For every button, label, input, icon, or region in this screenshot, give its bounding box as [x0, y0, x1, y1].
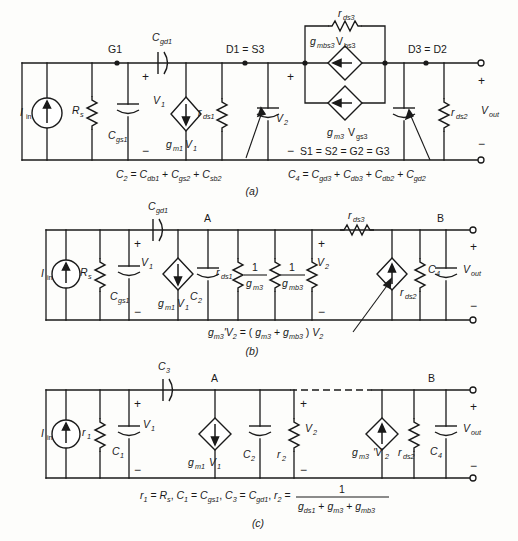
rds1-resistor-a: r ds1 — [198, 63, 227, 160]
source-resistance-b: R s — [80, 230, 105, 320]
v2-label-a: V — [276, 112, 284, 124]
input-source-sublabel-c: in — [47, 433, 53, 442]
rs-sublabel: s — [80, 110, 84, 119]
v2-plus-b: + — [318, 237, 325, 251]
gmb3-fraction-numerator-b: 1 — [289, 261, 295, 273]
c3-capacitor-c: C 3 — [158, 360, 173, 401]
gmbs3-v-label-a: V — [336, 35, 343, 47]
vout-minus-c: − — [470, 459, 477, 473]
c4-capacitor-a — [393, 63, 430, 160]
c2-capacitor-a: V 2 — [246, 63, 288, 160]
rds1-label-a: r — [198, 106, 202, 118]
v1-sublabel-b: 1 — [149, 262, 153, 271]
node-g1-label: G1 — [108, 43, 122, 55]
gm1-v1-sublabel-a: 1 — [193, 144, 197, 153]
circuit-b: I in R s C gs1 + − V 1 C gd1 — [41, 200, 482, 357]
r2-sublabel-c: 2 — [281, 454, 286, 463]
element-definitions-c: r1 = Rs, C1 = Cgs1, C3 = Cgd1, r2 = — [140, 489, 291, 504]
gm1-label-b: g — [158, 297, 164, 309]
vout-plus-a: + — [478, 74, 485, 88]
node-d3d2-dot — [423, 60, 428, 65]
output-terminal-neg-c — [470, 475, 476, 481]
rds3-sublabel-a: ds3 — [343, 13, 355, 22]
cgs1-sublabel: gs1 — [116, 135, 128, 144]
input-current-source-b: I in — [41, 230, 80, 320]
rds1-sublabel-b: ds1 — [221, 272, 233, 281]
r1-label-c: r — [82, 426, 86, 438]
c2-label-b: C — [190, 290, 198, 302]
v1-label-a: V — [153, 94, 161, 106]
gm3-fraction-numerator-b: 1 — [252, 261, 258, 273]
c4-capacitor-c: C 4 — [430, 390, 457, 478]
node-d1s3-label: D1 = S3 — [226, 43, 264, 55]
c4-label-c: C — [430, 445, 438, 457]
rds2-sublabel-a: ds2 — [456, 112, 468, 121]
gmbs3-source-a: g mbs3 V bs3 — [310, 35, 362, 80]
c2-label-c: C — [243, 448, 251, 460]
c2-definition-a: C2 = Cdb1 + Cgs2 + Csb2 — [116, 168, 221, 183]
gm3prime-v2-sublabel-c: 2 — [384, 452, 389, 461]
svg-text:gm3'V2 = ( gm3 + gmb3 ) V2: gm3'V2 = ( gm3 + gmb3 ) V2 — [208, 326, 323, 341]
rds3-sublabel-b: ds3 — [353, 215, 365, 224]
rds2-label-a: r — [451, 106, 455, 118]
input-source-sublabel: in — [26, 112, 32, 121]
v1-minus-a: − — [142, 144, 149, 158]
gmbs3-v-sublabel-a: bs3 — [344, 41, 356, 50]
rds2-resistor-a: r ds2 — [439, 63, 468, 160]
gm3-sublabel-a: m3 — [334, 132, 344, 141]
r1-resistor-c: r 1 — [82, 390, 105, 478]
vout-sublabel-c: out — [471, 428, 482, 437]
c1-label-c: C — [112, 445, 120, 457]
rds2-sublabel-c: ds2 — [403, 452, 415, 461]
cgd1-label: C — [152, 31, 160, 43]
gm3prime-v2-label-c: 'V — [373, 446, 383, 458]
node-a-label-b: A — [204, 212, 211, 224]
node-d1s3-dot — [242, 60, 247, 65]
v1-sublabel-c: 1 — [151, 424, 155, 433]
gmbs3-label-a: g — [310, 35, 316, 47]
caption-b: (b) — [246, 345, 259, 357]
gm3prime-source-c: g m3 'V 2 — [352, 390, 398, 478]
v1-minus-c: − — [134, 463, 141, 477]
gm1-sublabel-a: m1 — [173, 144, 183, 153]
gmb3-fraction-den-sub-b: mb3 — [289, 283, 303, 292]
node-g1-dot — [114, 60, 119, 65]
c2-sublabel-c: 2 — [250, 454, 255, 463]
one-over-gm3-resistor-b: 1 g m3 — [244, 230, 280, 320]
r2-fraction-numerator-c: 1 — [339, 483, 345, 495]
c3-sublabel-c: 3 — [166, 366, 170, 375]
r2-resistor-c: r 2 — [277, 390, 299, 478]
input-source-label-c: I — [41, 427, 44, 439]
c4-definition-a: C4 = Cgd3 + Cdb3 + Cdb2 + Cgd2 — [288, 168, 426, 183]
output-terminal-pos-c — [470, 387, 476, 393]
gm1-v1-sublabel-b: 1 — [185, 303, 189, 312]
vout-plus-c: + — [470, 400, 477, 414]
gm3-v-sublabel-a: gs3 — [356, 132, 368, 141]
svg-text:C4 = Cgd3 + Cdb3 + Cdb2 + Cgd2: C4 = Cgd3 + Cdb3 + Cdb2 + Cgd2 — [288, 168, 426, 183]
c1-sublabel-c: 1 — [120, 451, 124, 460]
gm1v1-source-c: g m1 V 1 — [188, 390, 231, 478]
v2-sublabel-c: 2 — [312, 428, 317, 437]
gm3-v-label-a: V — [348, 126, 355, 138]
r2-fraction-c: 1 gds1 + gm3 + gmb3 — [296, 483, 389, 515]
figure-canvas: I in R s G1 C gs1 + − V 1 C — [0, 0, 518, 541]
gm3-label-a: g — [327, 126, 333, 138]
rs-label-b: R — [80, 266, 88, 278]
v2-plus-a: + — [287, 70, 294, 84]
caption-a: (a) — [246, 185, 259, 197]
c2-capacitor-c: C 2 — [243, 390, 271, 478]
r2-label-c: r — [277, 448, 281, 460]
source-resistance-a: R s — [72, 63, 97, 160]
v1-minus-b: − — [134, 305, 141, 319]
rds1-sublabel-a: ds1 — [203, 112, 215, 121]
gmb3-fraction-den-b: g — [282, 277, 288, 289]
vout-label-a: V — [481, 104, 489, 116]
circuit-a: I in R s G1 C gs1 + − V 1 C — [20, 7, 500, 197]
caption-c: (c) — [252, 517, 264, 529]
c4-capacitor-b: C 4 — [428, 230, 457, 320]
vout-sublabel-a: out — [489, 110, 500, 119]
c4-label-b: C — [428, 263, 436, 275]
gm3prime-sublabel-c: m3 — [359, 452, 369, 461]
cgs1-capacitor-a: C gs1 — [108, 63, 139, 160]
node-b-label-b: B — [437, 212, 444, 224]
